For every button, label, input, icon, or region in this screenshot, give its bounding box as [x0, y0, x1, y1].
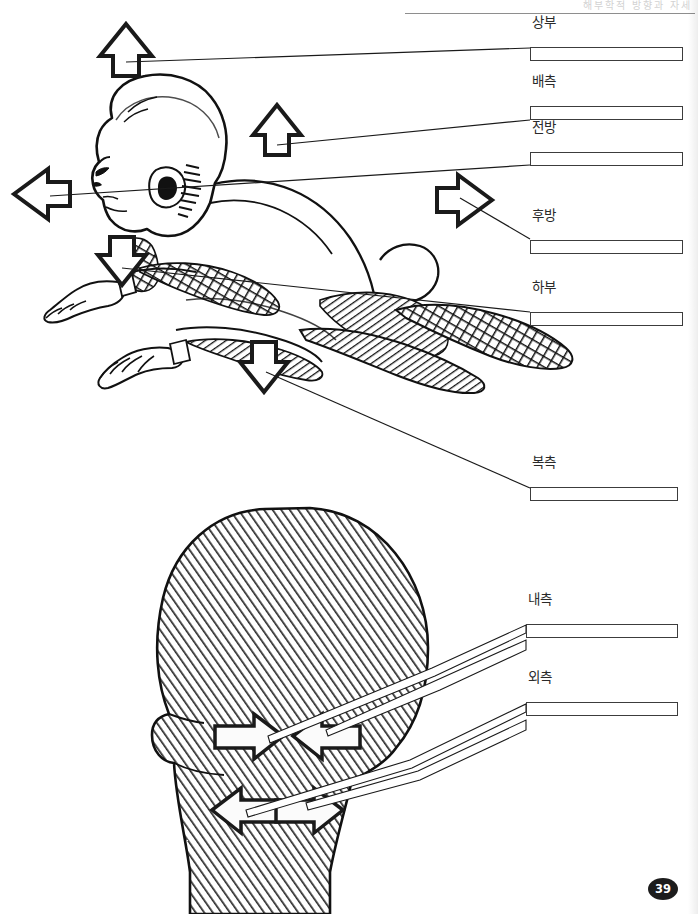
infant-shoulder-contour — [210, 200, 332, 254]
answer-blank-medial[interactable] — [526, 624, 678, 638]
answer-label-inferior: 하부 — [532, 276, 556, 296]
answer-blank-anterior[interactable] — [530, 152, 683, 166]
leader-superior — [126, 48, 530, 62]
infant-head-outline — [92, 75, 226, 236]
arrow-dorsal — [253, 105, 301, 155]
answer-label-ventral: 복측 — [532, 451, 556, 471]
answer-label-posterior: 후방 — [532, 204, 556, 224]
worksheet-page: 해부학적 방향과 자세 — [0, 0, 698, 914]
infant-wrist-lower — [170, 340, 190, 364]
infant-upper-arm-shading — [140, 263, 279, 315]
leader-ventral — [266, 372, 530, 488]
answer-label-anterior: 전방 — [532, 116, 556, 136]
answer-label-medial: 내측 — [528, 588, 552, 608]
answer-label-lateral: 외측 — [528, 666, 552, 686]
arrow-superior — [100, 24, 152, 76]
answer-label-dorsal: 배측 — [532, 70, 556, 90]
leader-posterior — [460, 198, 530, 239]
leader-dorsal — [277, 120, 530, 145]
answer-blank-ventral[interactable] — [530, 487, 678, 501]
arrow-anterior — [14, 169, 70, 219]
answer-label-superior: 상부 — [532, 11, 556, 31]
answer-blank-inferior[interactable] — [530, 312, 683, 326]
illustration-canvas — [0, 0, 698, 914]
page-number-badge: 39 — [648, 878, 678, 900]
answer-blank-posterior[interactable] — [530, 240, 683, 254]
answer-blank-lateral[interactable] — [526, 702, 678, 716]
infant-prone-figure — [44, 75, 572, 394]
answer-blank-superior[interactable] — [530, 47, 683, 61]
